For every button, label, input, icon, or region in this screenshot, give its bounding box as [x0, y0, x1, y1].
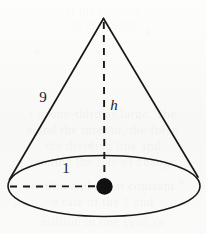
slant-height-label: 9: [39, 89, 47, 105]
base-center-dot: [96, 178, 112, 194]
radius-label: 1: [62, 160, 70, 176]
height-label: h: [110, 97, 118, 113]
cone-drawing: 9 h 1: [0, 0, 206, 234]
cone-diagram-figure: of the problem be estimated t is one-thi…: [0, 0, 206, 234]
cone-height-dashed-line: [104, 22, 105, 180]
